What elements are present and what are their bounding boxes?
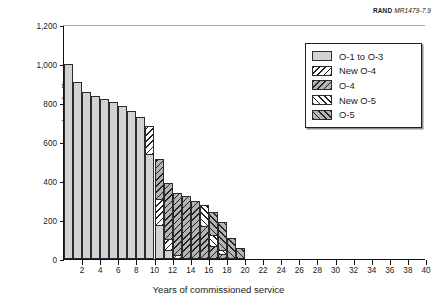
x-tick-label: 12 [168, 266, 177, 275]
x-tick-label: 30 [331, 266, 340, 275]
source-brand: RAND [373, 7, 392, 14]
x-tick-mark [82, 260, 83, 265]
y-tick-mark [60, 260, 65, 261]
x-tick-mark [155, 260, 156, 265]
bar-column [82, 92, 91, 259]
x-tick-label: 32 [349, 266, 358, 275]
bar-segment [209, 212, 218, 234]
legend-swatch [312, 51, 332, 61]
bar-column [100, 99, 109, 259]
bar-column [118, 106, 127, 259]
x-tick-label: 18 [222, 266, 231, 275]
y-tick-label: 400 [17, 178, 57, 187]
bar-segment [218, 222, 227, 250]
x-tick-mark [191, 260, 192, 265]
bar-segment [173, 255, 182, 259]
x-tick-mark [227, 260, 228, 265]
bar-segment [209, 246, 218, 259]
x-tick-mark [372, 260, 373, 265]
bar-column [155, 159, 164, 259]
bar-segment [127, 111, 136, 259]
x-tick-mark [354, 260, 355, 265]
legend-label: O-4 [339, 80, 355, 91]
bar-segment [209, 235, 218, 247]
x-tick-mark [245, 260, 246, 265]
y-tick-label: 1,000 [17, 61, 57, 70]
bar-segment [155, 159, 164, 199]
bar-segment [164, 250, 173, 259]
bar-column [182, 196, 191, 259]
x-tick-mark [317, 260, 318, 265]
x-tick-label: 26 [295, 266, 304, 275]
x-tick-label: 38 [403, 266, 412, 275]
x-tick-mark [173, 260, 174, 265]
bar-column [145, 126, 154, 259]
bar-segment [155, 199, 164, 225]
legend-swatch [312, 110, 332, 120]
y-tick-label: 200 [17, 217, 57, 226]
x-tick-label: 24 [277, 266, 286, 275]
bar-segment [64, 64, 73, 259]
legend-item: O-1 to O-3 [312, 49, 415, 64]
x-tick-label: 6 [116, 266, 121, 275]
y-tick-label: 600 [17, 139, 57, 148]
legend-swatch [312, 80, 332, 90]
x-tick-mark [118, 260, 119, 265]
source-tag: RANDMR1479-7.9 [373, 7, 431, 14]
bar-segment [118, 106, 127, 259]
legend-item: New O-5 [312, 93, 415, 108]
bar-column [127, 111, 136, 259]
source-doc-id: MR1479-7.9 [394, 7, 431, 14]
x-tick-mark [336, 260, 337, 265]
bar-segment [91, 96, 100, 259]
bar-column [227, 238, 236, 259]
bar-segment [164, 183, 173, 239]
bar-segment [218, 250, 227, 254]
bar-segment [164, 239, 173, 251]
bar-column [73, 82, 82, 259]
bar-column [236, 248, 245, 259]
x-tick-mark [263, 260, 264, 265]
x-tick-label: 10 [150, 266, 159, 275]
bar-segment [100, 99, 109, 259]
x-tick-mark [426, 260, 427, 265]
x-tick-label: 20 [240, 266, 249, 275]
bar-column [209, 212, 218, 259]
bar-segment [218, 254, 227, 259]
bar-segment [145, 154, 154, 259]
legend-item: New O-4 [312, 64, 415, 79]
bar-segment [155, 225, 164, 259]
legend-label: O-5 [339, 109, 355, 120]
bar-column [173, 193, 182, 259]
bar-segment [173, 193, 182, 255]
legend-swatch [312, 95, 332, 105]
bar-segment [191, 201, 200, 260]
bar-column [109, 102, 118, 259]
legend-label: New O-5 [339, 95, 376, 106]
y-tick-label: 800 [17, 100, 57, 109]
x-tick-mark [299, 260, 300, 265]
y-tick-label: 1,200 [17, 22, 57, 31]
y-tick-label: 0 [17, 256, 57, 265]
bar-column [91, 96, 100, 259]
x-tick-label: 36 [385, 266, 394, 275]
bar-column [200, 205, 209, 259]
x-tick-mark [281, 260, 282, 265]
bar-segment [136, 117, 145, 259]
bar-segment [109, 102, 118, 259]
x-tick-label: 22 [259, 266, 268, 275]
x-tick-label: 16 [204, 266, 213, 275]
x-tick-label: 2 [80, 266, 85, 275]
bar-segment [82, 92, 91, 259]
x-tick-label: 34 [367, 266, 376, 275]
bar-segment [182, 196, 191, 259]
bar-column [64, 64, 73, 259]
bar-segment [200, 226, 209, 259]
legend-swatch [312, 66, 332, 76]
x-tick-label: 14 [186, 266, 195, 275]
x-axis-title: Years of commissioned service [0, 284, 437, 295]
bar-segment [73, 82, 82, 259]
bar-column [191, 201, 200, 260]
x-tick-label: 28 [313, 266, 322, 275]
legend-label: O-1 to O-3 [339, 51, 383, 62]
